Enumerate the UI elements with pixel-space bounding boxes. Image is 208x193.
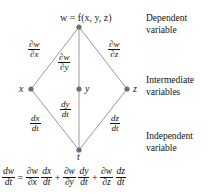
equation-term1b-numerator: dx — [41, 167, 52, 177]
equation-term3b-numerator: dz — [116, 167, 126, 177]
equation-term2a: ∂w ∂y — [63, 167, 76, 188]
caption-intermediate-line2: variables — [146, 87, 194, 99]
equation-term3a-denominator: ∂z — [100, 177, 113, 188]
caption-independent-line1: Independent — [146, 131, 193, 143]
equation-term3b-denominator: dt — [116, 177, 126, 188]
edge-label-dy-dt-numerator: dy — [60, 100, 71, 109]
node-label-x: x — [19, 84, 23, 94]
equation-term3a-numerator: ∂w — [100, 167, 113, 177]
equation-term3b: dz dt — [116, 167, 126, 188]
node-y — [76, 86, 81, 91]
edge-label-dw-dx-denominator: ∂x — [28, 49, 40, 59]
equation-term2b-denominator: dt — [78, 177, 89, 188]
edge-label-dz-dt-numerator: dz — [110, 114, 120, 123]
edge-label-dx-dt-denominator: dt — [30, 123, 41, 133]
node-w — [76, 24, 81, 29]
edge-label-dw-dx: ∂w ∂x — [28, 40, 40, 60]
equation-term1a-denominator: ∂x — [26, 177, 39, 188]
equation-term2a-numerator: ∂w — [63, 167, 76, 177]
edge-label-dw-dz-numerator: ∂w — [108, 40, 120, 49]
equation-term1a: ∂w ∂x — [26, 167, 39, 188]
caption-intermediate: Intermediate variables — [146, 75, 194, 99]
edge-label-dw-dz-denominator: ∂z — [108, 49, 120, 59]
edge-label-dw-dz: ∂w ∂z — [108, 40, 120, 60]
equation-term1b-denominator: dt — [41, 177, 52, 188]
equation-term2b-numerator: dy — [78, 167, 89, 177]
node-label-y: y — [85, 84, 89, 94]
node-label-w: w = f(x, y, z) — [60, 13, 112, 23]
equation-term3a: ∂w ∂z — [100, 167, 113, 188]
equation-term1b: dx dt — [41, 167, 52, 188]
edge-label-dy-dt: dy dt — [60, 100, 71, 120]
equation-equals-sign: = — [15, 172, 26, 183]
edge-label-dx-dt: dx dt — [30, 114, 41, 134]
edge-label-dz-dt-denominator: dt — [110, 123, 120, 133]
caption-intermediate-line1: Intermediate — [146, 75, 194, 87]
equation-lhs-denominator: dt — [2, 177, 15, 188]
caption-dependent-line1: Dependent — [146, 13, 187, 25]
node-label-t: t — [77, 152, 80, 162]
caption-dependent: Dependent variable — [146, 13, 187, 37]
equation-term1a-numerator: ∂w — [26, 167, 39, 177]
equation-plus-sign-1: + — [52, 172, 63, 183]
equation-lhs-numerator: dw — [2, 167, 15, 177]
node-label-z: z — [133, 84, 137, 94]
caption-dependent-line2: variable — [146, 25, 187, 37]
edge-label-dz-dt: dz dt — [110, 114, 120, 134]
edge-label-dx-dt-numerator: dx — [30, 114, 41, 123]
caption-independent-line2: variable — [146, 143, 193, 155]
edge-label-dw-dx-numerator: ∂w — [28, 40, 40, 49]
node-z — [124, 86, 129, 91]
equation-term2b: dy dt — [78, 167, 89, 188]
edge-label-dy-dt-denominator: dt — [60, 109, 71, 119]
equation-plus-sign-2: + — [89, 172, 100, 183]
chain-rule-diagram: w = f(x, y, z) x y z t ∂w ∂x ∂w ∂y ∂w ∂z… — [0, 0, 208, 193]
chain-rule-equation: dw dt = ∂w ∂x dx dt + ∂w ∂y dy dt + ∂w ∂… — [2, 162, 208, 192]
edge-label-dw-dy-denominator: ∂y — [58, 62, 70, 72]
edge-label-dw-dy: ∂w ∂y — [58, 53, 70, 73]
caption-independent: Independent variable — [146, 131, 193, 155]
node-x — [28, 86, 33, 91]
equation-term2a-denominator: ∂y — [63, 177, 76, 188]
edge-label-dw-dy-numerator: ∂w — [58, 53, 70, 62]
equation-lhs: dw dt — [2, 167, 15, 188]
